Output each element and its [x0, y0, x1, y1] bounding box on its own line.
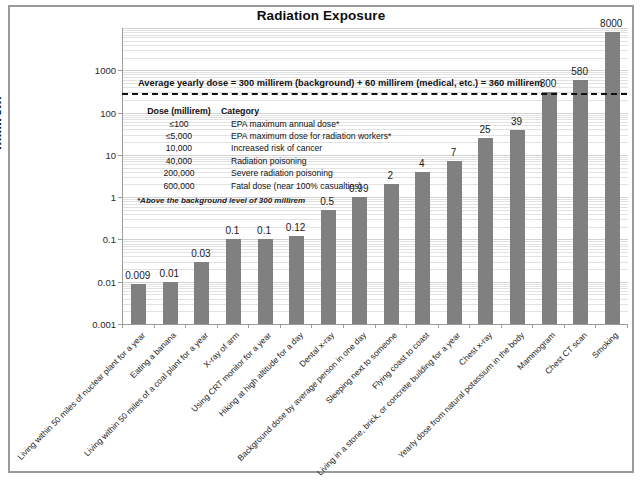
x-axis-tick-mark [469, 324, 470, 328]
bar-value-label: 0.01 [160, 268, 179, 279]
gridline [123, 72, 628, 73]
y-axis-tick-label: 100 [72, 107, 116, 118]
x-axis-tick-mark [122, 324, 123, 328]
y-axis-tick-label: 0.01 [72, 276, 116, 287]
bar [447, 161, 462, 324]
bar-value-label: 0.12 [286, 222, 305, 233]
dose-table-cell-dose: 600,000 [137, 180, 221, 192]
bar [226, 239, 241, 324]
y-axis-tick-label: 0.1 [72, 234, 116, 245]
bar [289, 236, 304, 324]
y-axis-tick-mark [118, 113, 122, 114]
dose-table-header-dose: Dose (millirem) [137, 106, 221, 118]
bar [131, 284, 146, 324]
dose-table-cell-category: Severe radiation poisoning [221, 168, 391, 180]
chart-title: Radiation Exposure [0, 8, 642, 23]
bar-value-label: 7 [451, 147, 457, 158]
bar [258, 239, 273, 324]
gridline [123, 70, 628, 71]
dose-table-header-row: Dose (millirem) Category [137, 106, 391, 118]
gridline [123, 30, 628, 31]
x-axis-tick-mark [154, 324, 155, 328]
bar-value-label: 300 [540, 78, 557, 89]
bar-value-label: 0.009 [125, 270, 150, 281]
bar [510, 130, 525, 324]
y-axis-tick-mark [118, 70, 122, 71]
bar [415, 172, 430, 324]
bar [163, 282, 178, 324]
y-axis-tick-mark [118, 282, 122, 283]
gridline [123, 74, 628, 75]
dose-table-row: ≤5,000EPA maximum dose for radiation wor… [137, 130, 391, 142]
bar [605, 32, 620, 324]
gridline [123, 28, 628, 29]
x-axis-tick-mark [248, 324, 249, 328]
dose-table-header-category: Category [221, 106, 391, 118]
gridline [123, 50, 628, 51]
dose-table-row: 40,000Radiation poisoning [137, 155, 391, 167]
bar-value-label: 0.1 [257, 225, 271, 236]
bar [573, 80, 588, 324]
y-axis-tick-label: 10 [72, 149, 116, 160]
y-axis-tick-mark [118, 239, 122, 240]
bar-value-label: 8000 [600, 18, 622, 29]
x-axis-tick-mark [595, 324, 596, 328]
y-axis-tick-label: 1000 [72, 65, 116, 76]
dose-table-cell-category: EPA maximum annual dose* [221, 118, 391, 130]
gridline [123, 35, 628, 36]
y-axis-tick-label: 0.001 [72, 319, 116, 330]
y-axis-tick-label: 1 [72, 192, 116, 203]
x-axis-tick-mark [501, 324, 502, 328]
x-axis-tick-mark [185, 324, 186, 328]
x-axis-tick-mark [406, 324, 407, 328]
bar-value-label: 580 [571, 66, 588, 77]
bar-value-label: 0.5 [320, 196, 334, 207]
x-axis-tick-mark [375, 324, 376, 328]
x-axis-tick-mark [311, 324, 312, 328]
dose-table-cell-dose: ≤5,000 [137, 130, 221, 142]
y-axis-tick-mark [118, 197, 122, 198]
x-axis-tick-mark [280, 324, 281, 328]
x-axis-tick-mark [564, 324, 565, 328]
bar [352, 197, 367, 324]
bar-value-label: 39 [511, 116, 522, 127]
bar-value-label: 4 [419, 158, 425, 169]
x-axis-tick-mark [217, 324, 218, 328]
bar [478, 138, 493, 324]
bar [384, 184, 399, 324]
chart-screenshot: Radiation Exposure millirem Average year… [0, 0, 642, 487]
dose-reference-table: Dose (millirem) Category ≤100EPA maximum… [137, 106, 391, 192]
y-axis-title: millirem [0, 96, 4, 150]
x-axis-tick-mark [627, 324, 628, 328]
average-dose-line [122, 93, 627, 95]
bar-value-label: 0.99 [349, 183, 368, 194]
dose-table-cell-category: EPA maximum dose for radiation workers* [221, 130, 391, 142]
gridline [123, 58, 628, 59]
dose-table-cell-dose: 200,000 [137, 168, 221, 180]
bar-value-label: 0.03 [191, 248, 210, 259]
bar-value-label: 2 [388, 170, 394, 181]
bar-value-label: 0.1 [226, 225, 240, 236]
bar [321, 210, 336, 324]
dose-table-cell-dose: 10,000 [137, 143, 221, 155]
bar [542, 92, 557, 324]
gridline [123, 41, 628, 42]
x-axis-tick-mark [532, 324, 533, 328]
x-axis-tick-mark [438, 324, 439, 328]
dose-table-row: 200,000Severe radiation poisoning [137, 168, 391, 180]
bar-value-label: 25 [479, 124, 490, 135]
dose-table-cell-category: Radiation poisoning [221, 155, 391, 167]
dose-table-cell-dose: ≤100 [137, 118, 221, 130]
dose-table-footnote: *Above the background level of 300 milli… [137, 196, 305, 205]
dose-table-row: ≤100EPA maximum annual dose* [137, 118, 391, 130]
gridline [123, 45, 628, 46]
average-dose-annotation: Average yearly dose = 300 millirem (back… [138, 78, 543, 88]
gridline [123, 32, 628, 33]
dose-table-cell-dose: 40,000 [137, 155, 221, 167]
gridline [123, 37, 628, 38]
bar [194, 262, 209, 324]
dose-table-cell-category: Increased risk of cancer [221, 143, 391, 155]
dose-table-row: 10,000Increased risk of cancer [137, 143, 391, 155]
x-axis-tick-mark [343, 324, 344, 328]
y-axis-tick-mark [118, 155, 122, 156]
